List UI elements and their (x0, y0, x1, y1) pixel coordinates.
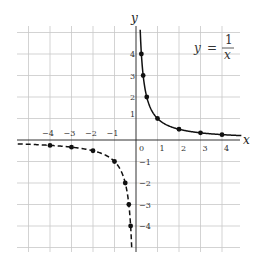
x-tick-label: −4 (42, 129, 54, 138)
y-tick-label: 1 (130, 110, 135, 119)
data-point (91, 148, 96, 153)
data-point (155, 116, 160, 121)
data-point (123, 181, 128, 186)
equation-lhs: y (193, 41, 201, 55)
x-tick-label: 1 (160, 144, 165, 153)
axes (17, 26, 240, 252)
y-tick-label: −1 (139, 158, 151, 167)
data-point (220, 132, 225, 137)
hyperbola-chart: −4−3−2−1012344321−1−2−3−4 x y y = 1 x (0, 0, 261, 263)
y-tick-label: −4 (139, 222, 151, 231)
y-tick-label: −2 (139, 179, 151, 188)
y-axis-label: y (130, 11, 138, 25)
equation-label: y = 1 x (193, 33, 234, 62)
data-point (144, 95, 149, 100)
y-tick-label: −3 (139, 201, 151, 210)
x-tick-label: −3 (64, 129, 76, 138)
x-axis-label: x (243, 133, 250, 147)
x-tick-label: −2 (85, 129, 97, 138)
x-tick-label: 0 (139, 144, 144, 153)
y-tick-label: 3 (130, 72, 135, 81)
equation-equals: = (207, 41, 217, 55)
data-point (177, 127, 182, 132)
data-point (198, 130, 203, 135)
equation-denominator: x (224, 48, 231, 62)
grid-lines (17, 26, 240, 252)
data-point (128, 224, 133, 229)
x-tick-label: −1 (107, 129, 119, 138)
x-tick-label: 2 (181, 144, 186, 153)
x-tick-label: 3 (203, 144, 208, 153)
x-tick-label: 4 (224, 144, 229, 153)
data-point (126, 202, 131, 207)
equation-numerator: 1 (225, 33, 233, 47)
data-point (112, 159, 117, 164)
y-tick-label: 4 (130, 50, 135, 59)
data-point (48, 143, 53, 148)
data-point (139, 52, 144, 57)
data-point (69, 145, 74, 150)
y-tick-label: 2 (130, 93, 135, 102)
data-point (141, 73, 146, 78)
